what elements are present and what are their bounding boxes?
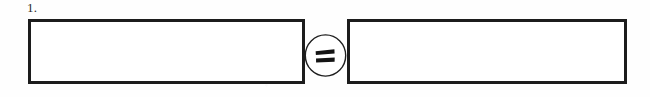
worksheet-item: 1. [0, 0, 650, 97]
right-answer-box[interactable] [347, 19, 627, 84]
left-answer-box[interactable] [28, 19, 305, 84]
item-number-label: 1. [27, 0, 37, 16]
equals-icon [304, 34, 347, 77]
circle-outline [305, 35, 345, 76]
equals-operator-circle [304, 34, 347, 77]
